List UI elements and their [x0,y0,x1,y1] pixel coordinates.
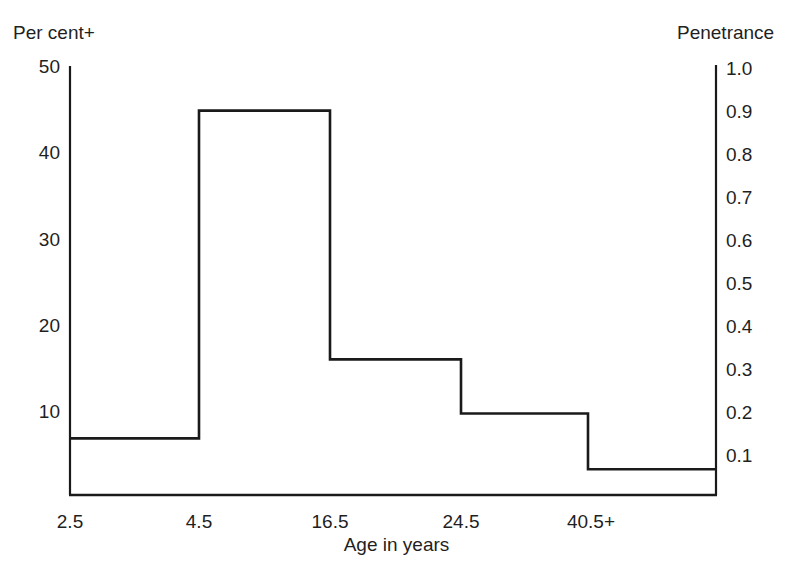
xtick-16-5: 16.5 [312,512,349,531]
ytick-right-0-2: 0.2 [726,403,752,422]
xtick-24-5: 24.5 [443,512,480,531]
ytick-right-1-0: 1.0 [726,59,752,78]
xtick-2-5: 2.5 [57,512,83,531]
ytick-right-0-3: 0.3 [726,360,752,379]
xtick-40-5-plus: 40.5+ [567,512,615,531]
xtick-4-5: 4.5 [186,512,212,531]
chart-figure: Per cent+ Penetrance 50 40 30 20 10 1.0 … [0,0,793,575]
x-axis-title: Age in years [0,534,793,556]
histogram-step-outline [70,111,716,470]
ytick-right-0-5: 0.5 [726,274,752,293]
ytick-right-0-9: 0.9 [726,102,752,121]
ytick-left-20: 20 [18,316,60,335]
ytick-left-10: 10 [18,402,60,421]
plot-area [0,0,793,575]
ytick-right-0-8: 0.8 [726,145,752,164]
ytick-left-50: 50 [18,57,60,76]
ytick-left-30: 30 [18,230,60,249]
ytick-left-40: 40 [18,143,60,162]
ytick-right-0-4: 0.4 [726,317,752,336]
ytick-right-0-6: 0.6 [726,231,752,250]
ytick-right-0-1: 0.1 [726,446,752,465]
ytick-right-0-7: 0.7 [726,188,752,207]
